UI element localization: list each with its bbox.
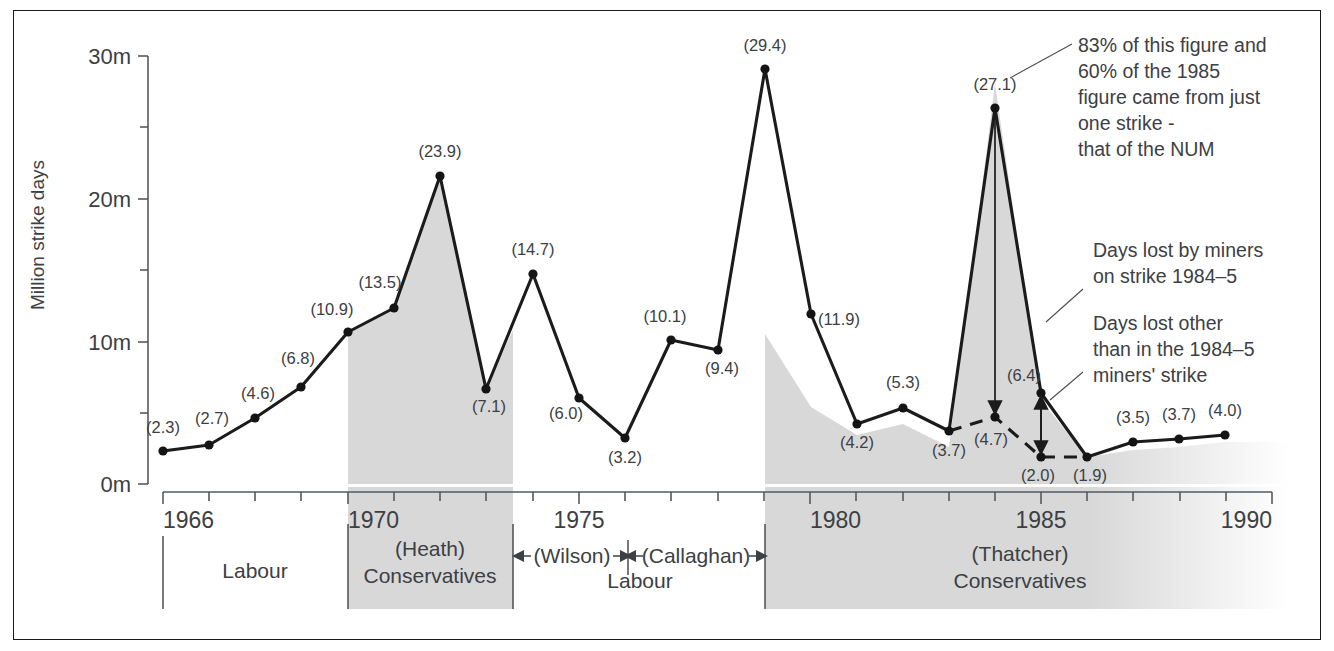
value-label-1986: (1.9) (1073, 466, 1107, 484)
num-note-line5: that of the NUM (1078, 138, 1215, 160)
chart-page: Million strike days 30m 20m 10m 0m 1966 … (0, 0, 1334, 651)
num-note-line1: 83% of this figure and (1078, 34, 1267, 56)
annotation-miners-days-lost: Days lost by miners on strike 1984–5 (1093, 239, 1263, 287)
period-label-thatcher-party: Conservatives (953, 569, 1086, 592)
num-note-line2: 60% of the 1985 (1078, 60, 1220, 82)
annotation-num-note: 83% of this figure and 60% of the 1985 f… (1078, 34, 1267, 160)
x-tick-1975: 1975 (553, 507, 604, 533)
x-tick-1985: 1985 (1015, 507, 1066, 533)
value-label-1988: (3.7) (1162, 405, 1196, 423)
y-tick-30m: 30m (88, 44, 131, 69)
strike-days-line-chart: Million strike days 30m 20m 10m 0m 1966 … (0, 0, 1334, 651)
other-note-line1: Days lost other (1093, 312, 1224, 334)
x-tick-1990: 1990 (1221, 507, 1272, 533)
x-tick-1966: 1966 (163, 507, 214, 533)
value-label-1989: (4.0) (1208, 401, 1242, 419)
value-label-1971: (13.5) (358, 273, 401, 291)
value-label-1984-dashed: (4.7) (974, 430, 1008, 448)
value-label-1985: (6.4) (1007, 366, 1041, 384)
data-point-markers (158, 64, 1229, 461)
value-label-1975: (6.0) (549, 404, 583, 422)
value-label-1982: (5.3) (886, 373, 920, 391)
miners-note-line2: on strike 1984–5 (1093, 265, 1237, 287)
value-label-1981: (4.2) (840, 433, 874, 451)
value-label-1985-dashed: (2.0) (1021, 466, 1055, 484)
x-tick-1970: 1970 (348, 507, 399, 533)
value-label-1967: (2.7) (195, 409, 229, 427)
value-label-1979: (29.4) (743, 36, 786, 54)
value-label-1978: (9.4) (705, 359, 739, 377)
value-label-1976: (3.2) (608, 448, 642, 466)
leader-miners-lost (1046, 289, 1083, 322)
period-label-labour-1: Labour (222, 559, 287, 582)
series-total-strike-days (163, 69, 1225, 457)
value-label-1970: (10.9) (310, 300, 353, 318)
period-label-thatcher-leader: (Thatcher) (972, 542, 1069, 565)
other-note-line3: miners' strike (1093, 364, 1207, 386)
value-label-1966: (2.3) (146, 418, 180, 436)
value-label-1984: (27.1) (973, 75, 1016, 93)
value-label-1969: (6.8) (281, 349, 315, 367)
period-label-heath-party: Conservatives (363, 564, 496, 587)
value-label-1973: (7.1) (472, 397, 506, 415)
value-label-1977: (10.1) (643, 307, 686, 325)
band-heath-conservatives (348, 176, 513, 484)
y-tick-0m: 0m (100, 472, 131, 497)
value-label-1968: (4.6) (241, 384, 275, 402)
value-label-1972: (23.9) (418, 142, 461, 160)
period-label-wilson: (Wilson) (534, 544, 611, 567)
leader-num-note (1010, 44, 1072, 78)
x-tick-1980: 1980 (810, 507, 861, 533)
num-note-line4: one strike - (1078, 112, 1174, 134)
y-tick-20m: 20m (88, 187, 131, 212)
value-label-1980: (11.9) (818, 310, 860, 328)
y-tick-10m: 10m (88, 330, 131, 355)
num-note-line3: figure came from just (1078, 86, 1261, 108)
period-label-callaghan: (Callaghan) (642, 544, 751, 567)
value-label-1983: (3.7) (932, 441, 966, 459)
leader-other-lost (1050, 372, 1083, 400)
period-label-labour-2: Labour (607, 569, 672, 592)
value-label-1987: (3.5) (1116, 408, 1150, 426)
other-note-line2: than in the 1984–5 (1093, 338, 1255, 360)
value-label-1974: (14.7) (511, 240, 554, 258)
period-label-heath-leader: (Heath) (395, 537, 465, 560)
miners-note-line1: Days lost by miners (1093, 239, 1263, 261)
annotation-other-days-lost: Days lost other than in the 1984–5 miner… (1093, 312, 1255, 386)
y-axis-title: Million strike days (27, 160, 48, 310)
